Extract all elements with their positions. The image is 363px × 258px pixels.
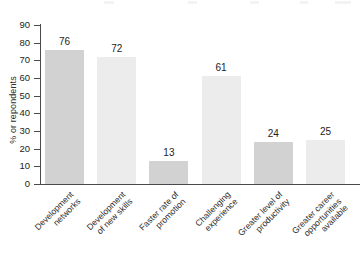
bar	[202, 76, 241, 184]
bar	[306, 140, 345, 184]
bar-value-label: 13	[149, 147, 188, 158]
bar	[254, 142, 293, 184]
bar-value-label: 25	[306, 126, 345, 137]
bar-value-label: 24	[254, 128, 293, 139]
bar	[97, 57, 136, 184]
bar-value-label: 72	[97, 43, 136, 54]
bar	[149, 161, 188, 184]
bar-chart: % or repondents 0102030405060708090 7672…	[0, 0, 363, 258]
bar-value-label: 61	[202, 62, 241, 73]
bar-value-label: 76	[45, 36, 84, 47]
bar	[45, 50, 84, 184]
